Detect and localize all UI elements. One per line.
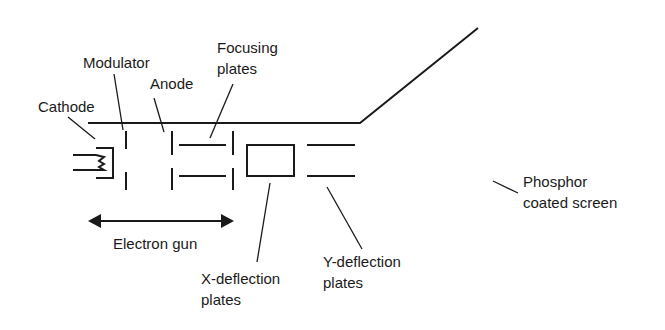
electron-gun-arrow <box>88 214 234 228</box>
label-electron-gun: Electron gun <box>113 235 197 252</box>
cathode-leader <box>68 117 95 139</box>
label-y-deflection-2: plates <box>323 274 363 291</box>
focusing-plates <box>179 131 233 190</box>
screen-leader <box>493 181 518 193</box>
cathode-element <box>73 148 113 178</box>
crt-diagram: Cathode Modulator Anode Focusing plates … <box>0 0 665 330</box>
label-screen-2: coated screen <box>523 194 617 211</box>
x-deflection-plates <box>247 145 294 176</box>
label-y-deflection-1: Y-deflection <box>323 253 401 270</box>
label-focusing-2: plates <box>217 60 257 77</box>
anode-leader <box>154 98 164 132</box>
label-x-deflection-1: X-deflection <box>201 270 280 287</box>
y-deflection-leader <box>327 187 362 249</box>
label-focusing-1: Focusing <box>217 39 278 56</box>
y-deflection-plates <box>307 145 355 176</box>
modulator-leader <box>114 74 123 130</box>
label-x-deflection-2: plates <box>201 291 241 308</box>
x-deflection-leader <box>257 183 270 262</box>
tube-outline <box>88 28 478 123</box>
label-modulator: Modulator <box>83 54 150 71</box>
label-anode: Anode <box>150 75 193 92</box>
label-screen-1: Phosphor <box>523 173 587 190</box>
label-cathode: Cathode <box>38 98 95 115</box>
focusing-leader <box>210 84 233 138</box>
